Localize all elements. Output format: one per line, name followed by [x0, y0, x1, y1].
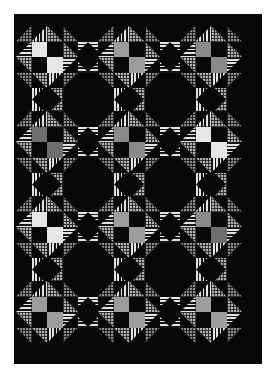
star-center-tl [114, 297, 130, 313]
star-corner-bl [180, 73, 196, 89]
star-center-tl [114, 42, 130, 58]
star-center-br [47, 57, 63, 73]
star-corner-tl [98, 111, 114, 127]
star-corner-tl [98, 26, 114, 42]
star-center-tr [47, 42, 63, 58]
star-center-br [47, 142, 63, 158]
star-center-br [211, 142, 227, 158]
star-corner-bl [16, 328, 32, 344]
star-block-r0-c1 [98, 26, 160, 88]
star-center-tr [47, 127, 63, 143]
star-center-tr [211, 42, 227, 58]
star-corner-tr [63, 196, 79, 212]
star-corner-tr [227, 196, 243, 212]
star-corner-tr [63, 281, 79, 297]
star-center-tr [211, 212, 227, 228]
star-center-bl [196, 142, 212, 158]
star-center-tl [114, 212, 130, 228]
star-corner-tr [63, 111, 79, 127]
star-center-bl [114, 227, 130, 243]
star-corner-br [145, 243, 161, 259]
star-center-bl [196, 227, 212, 243]
star-corner-bl [98, 243, 114, 259]
star-center-tr [129, 42, 145, 58]
star-corner-tr [145, 111, 161, 127]
star-center-bl [32, 142, 48, 158]
star-center-bl [32, 57, 48, 73]
star-center-tl [196, 42, 212, 58]
star-block-r1-c2 [180, 111, 242, 173]
star-corner-br [63, 328, 79, 344]
star-center-br [129, 227, 145, 243]
star-block-r0-c0 [16, 26, 78, 88]
star-center-tr [211, 297, 227, 313]
star-corner-br [227, 158, 243, 174]
star-corner-tr [145, 281, 161, 297]
star-center-br [211, 312, 227, 328]
star-corner-tr [145, 196, 161, 212]
star-corner-tl [16, 281, 32, 297]
star-corner-tl [16, 26, 32, 42]
star-corner-tr [145, 26, 161, 42]
star-corner-tl [98, 196, 114, 212]
star-corner-br [63, 158, 79, 174]
star-corner-bl [180, 243, 196, 259]
star-center-tr [211, 127, 227, 143]
star-center-tl [196, 127, 212, 143]
star-block-r1-c1 [98, 111, 160, 173]
star-center-tl [32, 127, 48, 143]
star-center-bl [32, 312, 48, 328]
star-center-tl [32, 212, 48, 228]
star-corner-tr [227, 26, 243, 42]
star-corner-br [63, 243, 79, 259]
star-center-bl [114, 142, 130, 158]
star-block-r3-c0 [16, 281, 78, 343]
star-center-tl [196, 297, 212, 313]
star-center-tl [32, 42, 48, 58]
star-block-r2-c1 [98, 196, 160, 258]
star-center-tl [32, 297, 48, 313]
star-center-tr [47, 212, 63, 228]
star-center-br [129, 57, 145, 73]
star-corner-bl [98, 158, 114, 174]
star-center-bl [32, 227, 48, 243]
star-corner-bl [180, 328, 196, 344]
star-corner-br [63, 73, 79, 89]
star-corner-br [145, 158, 161, 174]
star-corner-tr [227, 281, 243, 297]
star-center-tr [129, 127, 145, 143]
star-center-br [47, 312, 63, 328]
star-center-br [211, 57, 227, 73]
star-corner-bl [98, 328, 114, 344]
star-corner-br [227, 243, 243, 259]
star-center-br [129, 142, 145, 158]
star-block-r3-c1 [98, 281, 160, 343]
star-corner-bl [16, 158, 32, 174]
star-corner-bl [98, 73, 114, 89]
star-corner-bl [180, 158, 196, 174]
star-center-tl [196, 212, 212, 228]
star-corner-tl [98, 281, 114, 297]
star-corner-tl [180, 111, 196, 127]
star-corner-tl [180, 281, 196, 297]
star-center-tr [129, 297, 145, 313]
star-block-r0-c2 [180, 26, 242, 88]
star-block-r2-c2 [180, 196, 242, 258]
quilt-image [14, 14, 262, 364]
star-center-bl [114, 312, 130, 328]
star-center-tl [114, 127, 130, 143]
star-corner-br [227, 328, 243, 344]
star-center-bl [196, 312, 212, 328]
star-corner-tr [63, 26, 79, 42]
star-corner-br [145, 73, 161, 89]
star-corner-bl [16, 73, 32, 89]
star-center-tr [129, 212, 145, 228]
star-corner-tr [227, 111, 243, 127]
star-corner-br [227, 73, 243, 89]
star-corner-br [145, 328, 161, 344]
star-corner-bl [16, 243, 32, 259]
star-center-br [129, 312, 145, 328]
star-center-br [47, 227, 63, 243]
star-center-bl [114, 57, 130, 73]
star-corner-tl [16, 196, 32, 212]
